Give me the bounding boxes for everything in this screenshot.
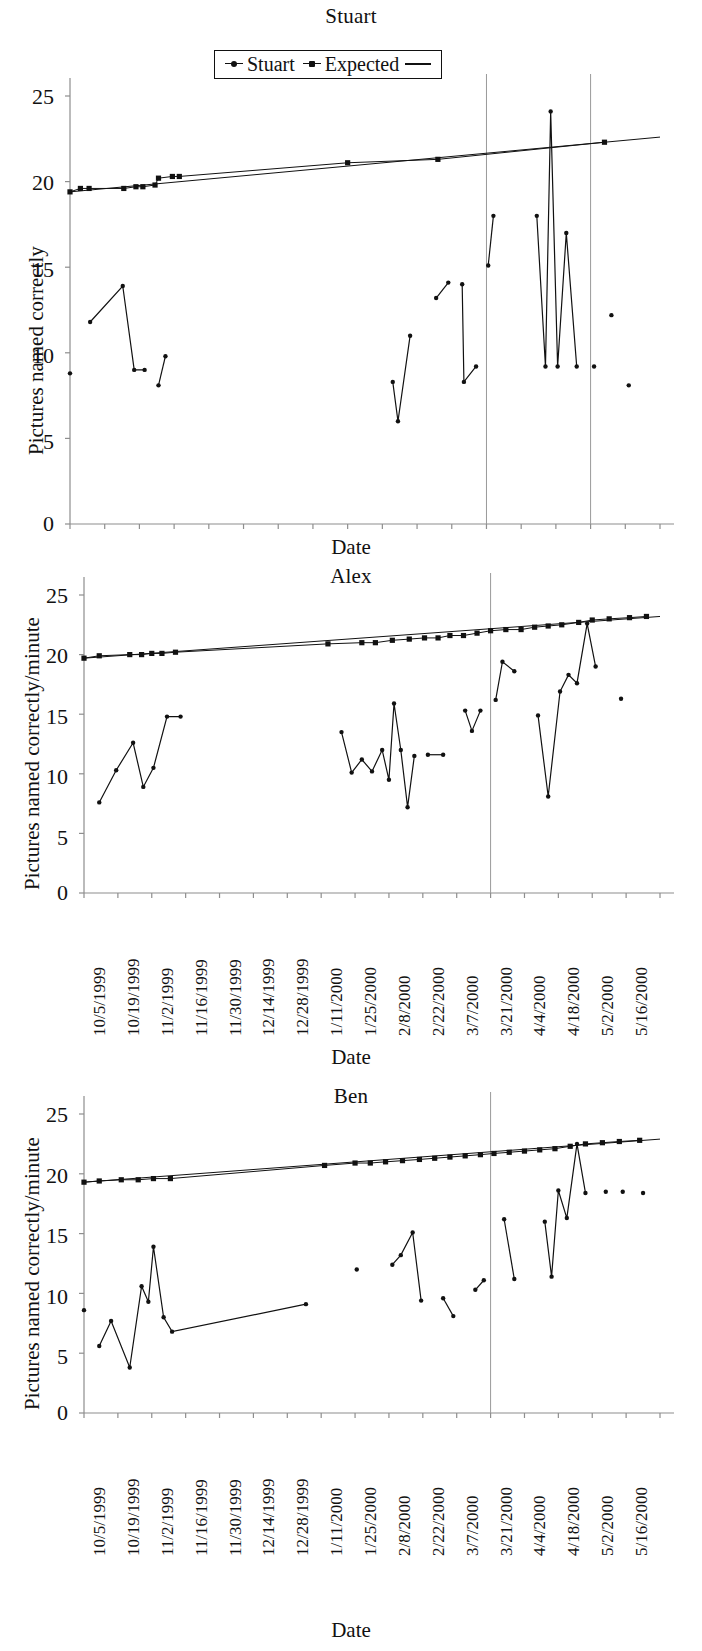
- observed-series-line: [504, 1219, 514, 1279]
- data-point-marker-square: [522, 1148, 527, 1153]
- xtick-label: 11/30/1999: [227, 1479, 244, 1556]
- data-point-marker-dot: [627, 383, 631, 387]
- data-point-marker-dot: [460, 282, 464, 286]
- xtick-label: 2/22/2000: [430, 1487, 447, 1556]
- observed-series-line: [443, 1298, 453, 1316]
- data-point-marker-dot: [132, 368, 136, 372]
- data-point-marker-square: [400, 1158, 405, 1163]
- observed-series-line: [90, 286, 144, 370]
- data-point-marker-dot: [555, 364, 559, 368]
- data-point-marker-square: [156, 176, 161, 181]
- data-point-marker-square: [576, 620, 581, 625]
- data-point-marker-dot: [621, 1190, 625, 1194]
- xtick-label: 10/5/1999: [91, 1487, 108, 1556]
- data-point-marker-square: [491, 1151, 496, 1156]
- data-point-marker-dot: [97, 800, 101, 804]
- data-point-marker-square: [627, 615, 632, 620]
- observed-series-line: [488, 216, 493, 266]
- ytick-label: 25: [28, 1104, 68, 1126]
- x-tick-labels-ben: 10/5/199910/19/199911/2/199911/16/199911…: [0, 1432, 702, 1562]
- data-point-marker-dot: [604, 1190, 608, 1194]
- observed-series-line: [392, 1232, 421, 1300]
- xtick-label: 1/25/2000: [362, 967, 379, 1036]
- xtick-label: 5/16/2000: [633, 967, 650, 1036]
- data-point-marker-square: [368, 1160, 373, 1165]
- data-point-marker-square: [127, 652, 132, 657]
- xtick-label: 10/5/1999: [91, 967, 108, 1036]
- data-point-marker-dot: [304, 1302, 308, 1306]
- data-point-marker-dot: [426, 753, 430, 757]
- xtick-label: 11/2/1999: [159, 1488, 176, 1556]
- data-point-marker-dot: [156, 383, 160, 387]
- ytick-label: 25: [14, 86, 54, 108]
- data-point-marker-dot: [399, 1253, 403, 1257]
- data-point-marker-dot: [482, 1278, 486, 1282]
- data-point-marker-square: [568, 1144, 573, 1149]
- data-point-marker-square: [78, 186, 83, 191]
- xtick-label: 12/28/1999: [294, 1479, 311, 1556]
- data-point-marker-square: [447, 1154, 452, 1159]
- ytick-label: 25: [28, 585, 68, 607]
- data-point-marker-dot: [97, 1344, 101, 1348]
- xtick-label: 3/21/2000: [498, 1487, 515, 1556]
- data-point-marker-square: [537, 1147, 542, 1152]
- data-point-marker-square: [139, 652, 144, 657]
- data-point-marker-dot: [151, 1245, 155, 1249]
- data-point-marker-dot: [408, 333, 412, 337]
- observed-series-line: [393, 336, 410, 422]
- plot-svg-stuart: [0, 0, 702, 560]
- data-point-marker-dot: [360, 757, 364, 761]
- data-point-marker-square: [177, 174, 182, 179]
- data-point-marker-dot: [593, 664, 597, 668]
- data-point-marker-dot: [441, 753, 445, 757]
- data-point-marker-dot: [142, 368, 146, 372]
- data-point-marker-square: [81, 656, 86, 661]
- data-point-marker-square: [590, 617, 595, 622]
- data-point-marker-square: [552, 1146, 557, 1151]
- data-point-marker-dot: [410, 1230, 414, 1234]
- data-point-marker-dot: [512, 669, 516, 673]
- data-point-marker-square: [390, 638, 395, 643]
- data-point-marker-dot: [68, 371, 72, 375]
- data-point-marker-square: [168, 1176, 173, 1181]
- data-point-marker-dot: [441, 1296, 445, 1300]
- data-point-marker-dot: [548, 109, 552, 113]
- xtick-label: 4/4/2000: [531, 976, 548, 1036]
- observed-series-line: [537, 111, 577, 366]
- data-point-marker-dot: [390, 1262, 394, 1266]
- data-point-marker-square: [644, 614, 649, 619]
- observed-series-line: [545, 1144, 586, 1277]
- data-point-marker-dot: [161, 1315, 165, 1319]
- data-point-marker-dot: [392, 701, 396, 705]
- data-point-marker-square: [121, 186, 126, 191]
- data-point-marker-dot: [88, 320, 92, 324]
- data-point-marker-dot: [387, 778, 391, 782]
- data-point-marker-dot: [451, 1314, 455, 1318]
- data-point-marker-square: [463, 1153, 468, 1158]
- data-point-marker-square: [559, 622, 564, 627]
- data-point-marker-dot: [163, 354, 167, 358]
- data-point-marker-dot: [396, 419, 400, 423]
- observed-series-line: [99, 1247, 306, 1368]
- xtick-label: 12/28/1999: [294, 959, 311, 1036]
- xtick-label: 1/11/2000: [328, 968, 345, 1036]
- data-point-marker-square: [518, 627, 523, 632]
- observed-series-line: [496, 662, 515, 700]
- data-point-marker-square: [637, 1138, 642, 1143]
- data-point-marker-square: [352, 1160, 357, 1165]
- data-point-marker-dot: [131, 741, 135, 745]
- chart-panel-alex: Alex 25 20 15 10 5 0 Pictures named corr…: [0, 560, 702, 1080]
- data-point-marker-square: [86, 186, 91, 191]
- data-point-marker-dot: [641, 1191, 645, 1195]
- data-point-marker-square: [345, 160, 350, 165]
- observed-series-line: [538, 624, 596, 797]
- data-point-marker-square: [407, 637, 412, 642]
- data-point-marker-dot: [536, 713, 540, 717]
- xtick-label: 11/16/1999: [193, 959, 210, 1036]
- observed-series-line: [159, 356, 166, 385]
- data-point-marker-dot: [405, 805, 409, 809]
- data-point-marker-dot: [585, 621, 589, 625]
- observed-series-line: [436, 283, 448, 298]
- xtick-label: 5/16/2000: [633, 1487, 650, 1556]
- data-point-marker-dot: [82, 1308, 86, 1312]
